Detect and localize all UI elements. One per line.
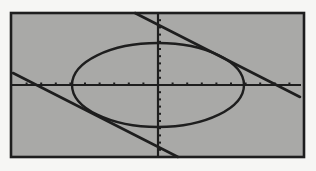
graph-screen bbox=[0, 0, 316, 171]
calculator-graph-screenshot bbox=[0, 0, 316, 171]
